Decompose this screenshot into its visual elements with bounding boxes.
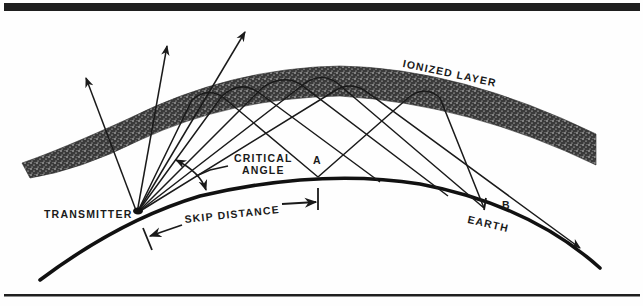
critical-angle-label: CRITICAL ANGLE xyxy=(234,153,293,176)
top-border-rule xyxy=(4,3,640,11)
diagram-canvas: IONIZED LAYER CRITICAL ANGLE A B TRANSMI… xyxy=(0,0,643,306)
bottom-border-rule xyxy=(4,294,640,297)
critical-angle-label-line2: ANGLE xyxy=(234,165,293,177)
ionized-layer xyxy=(22,66,596,178)
point-a-label: A xyxy=(313,155,322,167)
transmitter-marker xyxy=(133,208,143,215)
critical-angle-label-line1: CRITICAL xyxy=(234,153,293,165)
transmitter-label: TRANSMITTER xyxy=(44,209,132,221)
diagram-svg xyxy=(0,0,643,306)
point-b-label: B xyxy=(502,200,511,212)
earth-surface xyxy=(40,178,600,280)
